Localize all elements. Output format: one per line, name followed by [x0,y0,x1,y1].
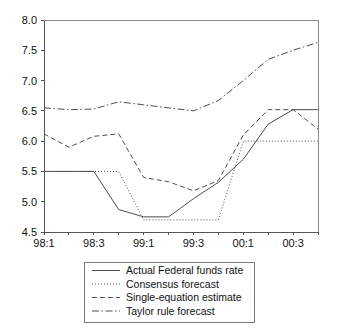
y-tick-label: 5.0 [22,196,37,208]
x-tick-label: 98:3 [83,237,104,249]
chart-figure: 4.55.05.56.06.57.07.58.0 98:198:399:199:… [0,0,338,336]
data-series-group [44,42,318,219]
y-tick-label: 7.0 [22,75,37,87]
x-tick-label: 98:1 [33,237,54,249]
legend-label: Taylor rule forecast [126,305,215,317]
legend-label: Actual Federal funds rate [126,264,243,276]
y-tick-label: 6.0 [22,135,37,147]
y-tick-label: 5.5 [22,165,37,177]
series-line-solid [44,110,318,217]
legend-label: Consensus forecast [126,278,219,290]
y-tick-label: 6.5 [22,105,37,117]
legend-label: Single-equation estimate [126,291,242,303]
x-tick-label: 00:1 [233,237,254,249]
line-chart: 4.55.05.56.06.57.07.58.0 98:198:399:199:… [0,0,338,336]
x-tick-label: 99:3 [183,237,204,249]
y-tick-label: 7.5 [22,44,37,56]
x-tick-label: 00:3 [282,237,303,249]
series-line-dashdot [44,42,318,110]
x-axis-tick-labels: 98:198:399:199:300:100:3 [33,237,304,249]
y-tick-label: 8.0 [22,14,37,26]
y-axis-tick-labels: 4.55.05.56.06.57.07.58.0 [22,14,37,238]
x-tick-label: 99:1 [133,237,154,249]
series-line-dashed [44,110,318,191]
